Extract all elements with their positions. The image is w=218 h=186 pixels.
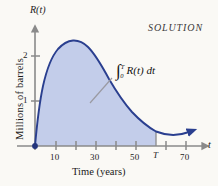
upper-bound-label: T (153, 150, 158, 160)
x-axis-label: t (208, 139, 211, 150)
x-tick-label-30: 30 (90, 152, 100, 162)
integral-lower-limit: 0 (120, 72, 123, 79)
x-tick-label-50: 50 (130, 152, 140, 162)
x-tick-label-70: 70 (180, 152, 190, 162)
y-axis-title: Millions of barrels (14, 58, 25, 140)
origin-dot (32, 143, 38, 149)
integral-upper-limit: T (121, 63, 125, 70)
x-axis-title: Time (years) (72, 166, 126, 177)
solution-heading: SOLUTION (148, 22, 203, 33)
y-axis-label: R(t) (30, 4, 46, 15)
integral-annotation: ∫T0R(t) dt (116, 62, 155, 79)
integrand: R(t) dt (127, 64, 155, 76)
x-tick-label-10: 10 (50, 152, 60, 162)
